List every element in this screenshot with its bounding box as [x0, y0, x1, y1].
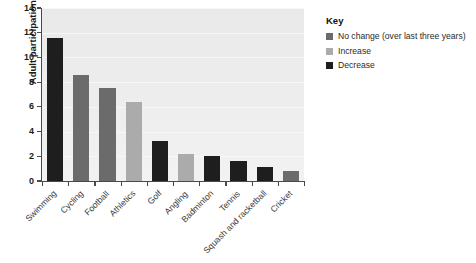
x-axis-tick	[225, 182, 226, 186]
x-axis-tick	[252, 182, 253, 186]
bar	[152, 141, 168, 181]
x-axis-tick	[278, 182, 279, 186]
bar	[204, 156, 220, 181]
y-axis-tick	[37, 106, 41, 107]
bar	[47, 38, 63, 181]
bar-chart-figure: Adult participation per month (%) 024681…	[0, 0, 476, 263]
y-axis-tick	[37, 180, 41, 181]
x-axis-label: Cycling	[59, 189, 85, 215]
y-axis-tick	[37, 82, 41, 83]
y-axis-tick-label: 10	[12, 53, 34, 62]
gridline	[42, 33, 304, 34]
bar	[178, 154, 194, 181]
x-axis-label: Athletics	[108, 189, 137, 218]
y-axis-tick	[37, 156, 41, 157]
bar	[257, 167, 273, 181]
y-axis-title: Adult participation per month (%)	[26, 0, 40, 102]
gridline	[42, 57, 304, 58]
y-axis-tick-label: 6	[12, 102, 34, 111]
bar	[126, 102, 142, 181]
legend-title: Key	[326, 16, 476, 26]
x-axis-tick	[121, 182, 122, 186]
x-axis-tick	[68, 182, 69, 186]
x-axis-tick	[147, 182, 148, 186]
y-axis-tick	[37, 131, 41, 132]
y-axis-tick-label: 0	[12, 177, 34, 186]
legend-swatch-no_change	[326, 33, 333, 40]
y-axis-tick	[37, 57, 41, 58]
x-axis-label: Cricket	[269, 189, 294, 214]
legend: Key No change (over last three years)Inc…	[326, 16, 476, 76]
x-axis-label: Football	[83, 189, 111, 217]
bar	[99, 88, 115, 181]
bar	[283, 171, 299, 182]
x-axis-tick	[94, 182, 95, 186]
legend-label-decrease: Decrease	[338, 61, 375, 70]
y-axis-tick	[37, 7, 41, 8]
legend-item-no_change: No change (over last three years)	[326, 32, 476, 41]
x-axis-label: Golf	[146, 189, 164, 207]
x-axis-label: Swimming	[24, 189, 58, 223]
x-axis-label: Tennis	[218, 189, 242, 213]
y-axis-tick-label: 14	[12, 4, 34, 13]
bar	[73, 75, 89, 181]
legend-swatch-decrease	[326, 62, 333, 69]
legend-label-increase: Increase	[338, 47, 371, 56]
x-axis-tick	[173, 182, 174, 186]
x-axis-tick	[199, 182, 200, 186]
y-axis-tick-label: 12	[12, 28, 34, 37]
y-axis-tick-label: 4	[12, 127, 34, 136]
gridline	[42, 8, 304, 9]
y-axis-tick-label: 2	[12, 152, 34, 161]
bar	[230, 161, 246, 181]
x-axis-tick	[304, 182, 305, 186]
legend-swatch-increase	[326, 48, 333, 55]
y-axis-tick-label: 8	[12, 78, 34, 87]
legend-item-increase: Increase	[326, 47, 476, 56]
plot-area	[42, 8, 304, 181]
legend-label-no_change: No change (over last three years)	[338, 32, 466, 41]
y-axis-line	[41, 8, 42, 182]
legend-item-decrease: Decrease	[326, 61, 476, 70]
legend-items: No change (over last three years)Increas…	[326, 32, 476, 70]
x-axis-tick	[42, 182, 43, 186]
y-axis-tick	[37, 32, 41, 33]
